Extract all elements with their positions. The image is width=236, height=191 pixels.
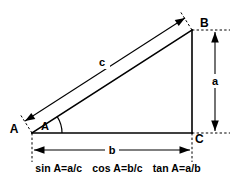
- arrow-head-b-right: [180, 146, 191, 154]
- trig-diagram: A B C A c a b c a b sin A=a/ccos A=b/cta…: [0, 0, 236, 191]
- arrow-head-a-bottom: [211, 121, 219, 132]
- formula-row: sin A=a/ccos A=b/ctan A=a/b: [0, 162, 236, 174]
- side-label-c-top: c: [99, 56, 105, 68]
- dimension-c-group: [20, 11, 192, 133]
- arrow-head-b-left: [34, 146, 45, 154]
- angle-arc-a: [57, 117, 62, 133]
- arrow-head-c-start: [25, 113, 35, 121]
- angle-label-a: A: [41, 120, 49, 132]
- triangle-outline: [32, 30, 192, 133]
- side-label-a-top: a: [212, 75, 219, 87]
- vertex-label-b: B: [200, 16, 209, 30]
- formula-tangent: tan A=a/b: [153, 162, 201, 174]
- side-c-hypotenuse-line: [32, 30, 192, 133]
- side-label-b-top: b: [109, 144, 116, 156]
- dimension-line-c: [25, 18, 185, 121]
- vertex-label-c: C: [195, 132, 204, 146]
- formula-cosine: cos A=b/c: [92, 162, 142, 174]
- formula-sine: sin A=a/c: [35, 162, 82, 174]
- vertex-label-a: A: [10, 122, 19, 136]
- angle-arc-group: [57, 117, 62, 133]
- arrow-head-c-end: [175, 18, 185, 26]
- arrow-head-a-top: [211, 32, 219, 43]
